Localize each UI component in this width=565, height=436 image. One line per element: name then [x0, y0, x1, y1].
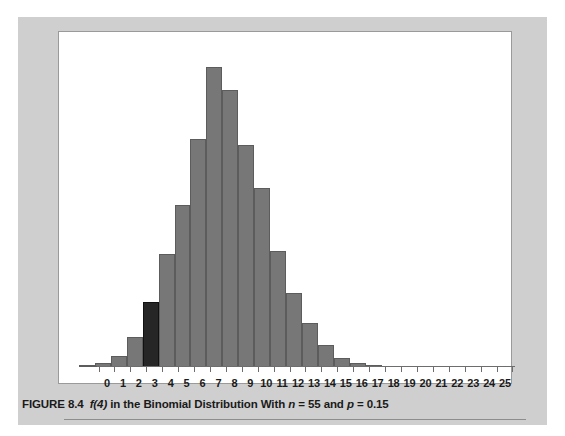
bar-cell — [382, 50, 398, 367]
x-axis-tick — [115, 367, 131, 372]
bar-cell — [206, 50, 222, 367]
x-axis-tick — [290, 367, 306, 372]
x-axis-tick-label: 14 — [322, 377, 338, 389]
x-axis-tick — [258, 367, 274, 372]
caption-p-value: = 0.15 — [357, 398, 389, 410]
x-axis-tick-label: 12 — [290, 377, 306, 389]
x-axis-tick-label: 4 — [163, 377, 179, 389]
x-axis-tick — [274, 367, 290, 372]
x-axis-tick-label: 1 — [115, 377, 131, 389]
caption-function-label: f(4) — [90, 398, 108, 410]
x-axis-tick-label: 19 — [402, 377, 418, 389]
x-axis-tick-label: 21 — [433, 377, 449, 389]
x-axis-ticks — [99, 367, 513, 372]
caption-p-symbol: p — [347, 398, 354, 410]
bar-cell — [175, 50, 191, 367]
x-axis-tick — [449, 367, 465, 372]
x-axis-tick — [497, 367, 513, 372]
bar — [175, 205, 191, 367]
caption-n-value: = 55 and — [298, 398, 344, 410]
x-axis-tick-label: 16 — [354, 377, 370, 389]
x-axis-tick-label: 25 — [497, 377, 513, 389]
x-axis-tick — [433, 367, 449, 372]
bar-cell — [302, 50, 318, 367]
x-axis-tick — [402, 367, 418, 372]
x-axis-tick — [306, 367, 322, 372]
bar — [127, 337, 143, 367]
caption-divider — [64, 419, 526, 420]
caption-figure-number: FIGURE 8.4 — [22, 398, 84, 410]
x-axis-tick — [370, 367, 386, 372]
bar-cell — [127, 50, 143, 367]
x-axis-tick-label: 22 — [449, 377, 465, 389]
bar-cell — [270, 50, 286, 367]
x-axis-tick — [338, 367, 354, 372]
bar-cell — [143, 50, 159, 367]
x-axis-tick-label: 0 — [99, 377, 115, 389]
x-axis-tick-label: 18 — [386, 377, 402, 389]
x-axis-tick-label: 13 — [306, 377, 322, 389]
x-axis-tick — [179, 367, 195, 372]
bar — [222, 90, 238, 367]
x-axis-tick-label: 8 — [226, 377, 242, 389]
bar — [254, 188, 270, 367]
x-axis-tick-label: 10 — [258, 377, 274, 389]
bar-cell — [318, 50, 334, 367]
bar-cell — [366, 50, 382, 367]
x-axis-tick — [354, 367, 370, 372]
x-axis-tick-label: 6 — [195, 377, 211, 389]
bar-cell — [159, 50, 175, 367]
bar-cell — [286, 50, 302, 367]
bar-cell — [190, 50, 206, 367]
x-axis-tick-label: 3 — [147, 377, 163, 389]
x-axis-tick — [322, 367, 338, 372]
bar-cell — [461, 50, 477, 367]
bar-cell — [95, 50, 111, 367]
x-axis-tick — [226, 367, 242, 372]
x-axis-tick — [163, 367, 179, 372]
bar-cell — [429, 50, 445, 367]
caption-n-symbol: n — [288, 398, 295, 410]
x-axis-tick-label: 9 — [242, 377, 258, 389]
bar-cell — [445, 50, 461, 367]
figure-caption: FIGURE 8.4f(4) in the Binomial Distribut… — [22, 398, 542, 410]
bar-cell — [413, 50, 429, 367]
x-axis-tick-label: 17 — [370, 377, 386, 389]
bar-cell — [254, 50, 270, 367]
x-axis-tick-labels: 0123456789101112131415161718192021222324… — [99, 377, 513, 389]
x-axis-tick — [481, 367, 497, 372]
bar — [302, 323, 318, 367]
bar-cell — [111, 50, 127, 367]
x-axis-tick — [99, 367, 115, 372]
x-axis-tick-label: 2 — [131, 377, 147, 389]
x-axis-tick-label: 24 — [481, 377, 497, 389]
x-axis-tick-label: 15 — [338, 377, 354, 389]
bar — [286, 293, 302, 367]
bar-cell — [334, 50, 350, 367]
bar-cell — [397, 50, 413, 367]
x-axis-tick — [465, 367, 481, 372]
x-axis-tick-label: 11 — [274, 377, 290, 389]
x-axis-tick-label: 5 — [179, 377, 195, 389]
caption-middle-text: in the Binomial Distribution With — [110, 398, 285, 410]
bar-series — [79, 50, 493, 367]
bar — [159, 254, 175, 367]
x-axis-tick — [195, 367, 211, 372]
bar — [318, 345, 334, 367]
x-axis-tick — [131, 367, 147, 372]
x-axis-tick — [417, 367, 433, 372]
x-axis-tick-label: 7 — [210, 377, 226, 389]
bar-cell — [477, 50, 493, 367]
bar-highlighted — [143, 302, 159, 367]
plot-frame: 0123456789101112131415161718192021222324… — [58, 31, 512, 384]
bar — [79, 365, 95, 367]
bar-cell — [238, 50, 254, 367]
figure-panel: 0123456789101112131415161718192021222324… — [18, 17, 547, 425]
bar — [238, 145, 254, 367]
bar-cell — [79, 50, 95, 367]
bar-cell — [350, 50, 366, 367]
x-axis-tick — [210, 367, 226, 372]
bar — [206, 67, 222, 367]
bar-cell — [222, 50, 238, 367]
x-axis-tick — [386, 367, 402, 372]
